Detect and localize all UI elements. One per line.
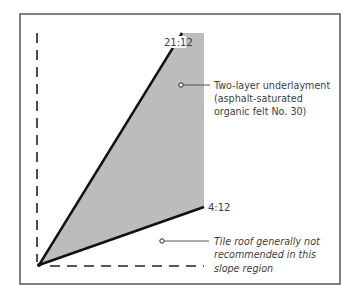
callout-text-underlayment-line2: (asphalt-saturated — [214, 93, 303, 104]
origin-point — [37, 263, 41, 267]
callout-text-not-recommended-line3: slope region — [214, 263, 273, 274]
callout-marker-underlayment — [179, 83, 183, 87]
callout-text-underlayment-line3: organic felt No. 30) — [214, 106, 306, 117]
callout-marker-not-recommended — [160, 239, 164, 243]
slope-label-21-12: 21:12 — [164, 37, 193, 48]
callout-text-underlayment-line1: Two-layer underlayment — [213, 80, 330, 91]
slope-label-4-12: 4:12 — [208, 202, 230, 213]
callout-text-not-recommended-line2: recommended in this — [214, 249, 316, 260]
slope-diagram: 21:12 4:12 Two-layer underlayment (aspha… — [0, 0, 353, 304]
callout-text-not-recommended-line1: Tile roof generally not — [214, 236, 321, 247]
